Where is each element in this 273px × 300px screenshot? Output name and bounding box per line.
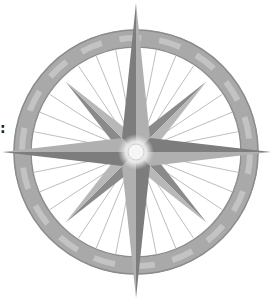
compass-rose-image: : [0, 0, 273, 300]
compass-rose-graphic [0, 0, 273, 300]
center-jewel [118, 134, 154, 170]
edge-glyph: : [0, 121, 6, 135]
